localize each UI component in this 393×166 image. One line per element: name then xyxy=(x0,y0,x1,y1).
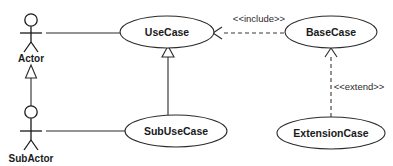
generalization-subusecase-usecase xyxy=(162,46,174,115)
use-case-node-basecase[interactable]: BaseCase xyxy=(285,16,377,48)
actor-label: Actor xyxy=(18,53,44,64)
diagram-canvas: <<include>> <<extend>> Actor SubActor xyxy=(0,0,393,166)
extend-stereotype-label: <<extend>> xyxy=(334,81,385,92)
generalization-subactor-actor xyxy=(26,65,37,107)
subactor-label: SubActor xyxy=(9,153,54,164)
include-stereotype-label: <<include>> xyxy=(233,13,286,24)
use-case-label: UseCase xyxy=(145,26,190,38)
dependency-extensioncase-basecase-extend: <<extend>> xyxy=(325,48,385,117)
dependency-basecase-usecase-include: <<include>> xyxy=(213,13,286,39)
actor-right-leg-icon xyxy=(31,42,38,52)
extend-arrowhead xyxy=(325,48,337,57)
use-case-label: SubUseCase xyxy=(144,125,208,137)
generalization-arrowhead xyxy=(26,65,37,78)
use-case-label: ExtensionCase xyxy=(293,127,368,139)
actor-left-leg-icon xyxy=(24,42,31,52)
actor-figure-actor[interactable]: Actor xyxy=(18,14,44,64)
use-case-node-subusecase[interactable]: SubUseCase xyxy=(125,115,227,147)
use-case-node-usecase[interactable]: UseCase xyxy=(120,16,214,48)
uml-use-case-diagram: <<include>> <<extend>> Actor SubActor xyxy=(0,0,393,166)
subactor-right-leg-icon xyxy=(31,140,38,150)
actor-figure-subactor[interactable]: SubActor xyxy=(9,106,54,164)
use-case-node-extensioncase[interactable]: ExtensionCase xyxy=(277,117,385,149)
actor-head-icon xyxy=(25,14,37,26)
subactor-left-leg-icon xyxy=(24,140,31,150)
use-case-label: BaseCase xyxy=(306,26,356,38)
subactor-head-icon xyxy=(25,106,37,118)
